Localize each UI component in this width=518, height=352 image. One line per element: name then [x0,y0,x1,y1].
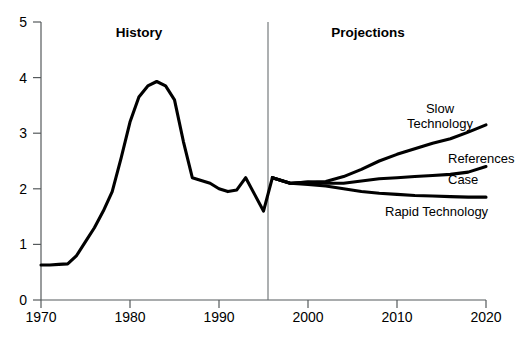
history-series-line [41,81,272,264]
reference-case-label-line1: References [448,151,515,166]
x-tick-label-2020: 2020 [470,309,501,325]
y-tick-label-0: 0 [19,292,27,308]
y-tick-label-1: 1 [19,236,27,252]
y-tick-label-3: 3 [19,125,27,141]
x-tick-label-1980: 1980 [114,309,145,325]
history-period-label: History [116,25,163,40]
y-tick-label-2: 2 [19,181,27,197]
x-tick-label-2010: 2010 [381,309,412,325]
slow-technology-label-line2: Technology [407,116,473,131]
line-chart-canvas: 5 4 3 2 1 0 1970 1980 1990 2000 2010 202… [0,0,518,352]
x-tick-label-2000: 2000 [292,309,323,325]
y-tick-label-5: 5 [19,14,27,30]
y-tick-label-4: 4 [19,70,27,86]
rapid-technology-label: Rapid Technology [385,204,489,219]
projections-period-label: Projections [331,25,405,40]
x-tick-label-1990: 1990 [203,309,234,325]
chart-figure: 5 4 3 2 1 0 1970 1980 1990 2000 2010 202… [0,0,518,352]
slow-technology-label-line1: Slow [426,101,455,116]
reference-case-label-line2: Case [448,172,478,187]
x-tick-label-1970: 1970 [25,309,56,325]
